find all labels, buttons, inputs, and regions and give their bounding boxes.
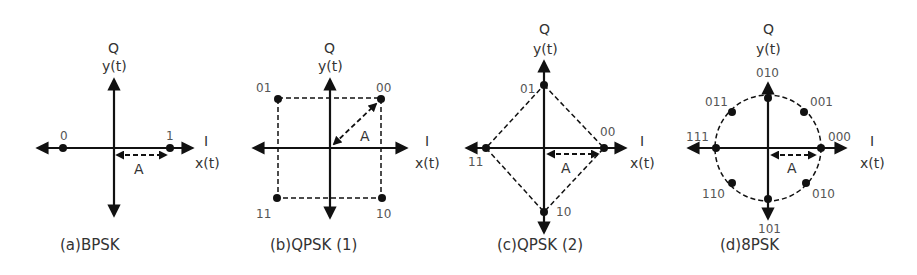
amplitude-label: A [561,160,571,176]
panel-caption: (d)8PSK [720,236,780,254]
symbol-point-11 [273,194,281,202]
q-axis-label: Q [108,40,119,56]
y-axis-label: y(t) [756,41,781,57]
x-axis-label: x(t) [195,155,220,171]
symbol-label: 111 [686,130,709,144]
symbol-point-0 [59,144,67,152]
panel-caption: (a)BPSK [60,236,121,254]
q-axis-label: Q [763,21,774,37]
panel-caption: (b)QPSK (1) [270,236,357,254]
symbol-point-101 [764,195,772,203]
amplitude-arrow [334,104,376,144]
i-axis-label: I [425,133,429,149]
x-axis-label: x(t) [860,155,885,171]
symbol-label: 000 [828,130,851,144]
symbol-label: 00 [600,125,615,139]
symbol-label: 00 [376,81,391,95]
panel-bpsk: 0 1 A Q y(t) I x(t) (a)BPSK [38,40,220,254]
symbol-label: 01 [520,82,535,96]
symbol-label: 101 [758,222,781,236]
symbol-point-00 [600,144,608,152]
symbol-point-11 [482,144,490,152]
symbol-point-001 [800,108,808,116]
symbol-label: 110 [702,187,725,201]
symbol-point-110 [728,179,736,187]
symbol-label: 010 [812,187,835,201]
constellation-diagrams: 0 1 A Q y(t) I x(t) (a)BPSK 01 00 11 10 … [0,0,917,275]
i-axis-label: I [204,133,208,149]
amplitude-label: A [360,128,370,144]
symbol-point-01 [540,81,548,89]
panel-8psk: 010 001 011 111 000 110 010 101 A Q y(t)… [686,21,885,254]
x-axis-label: x(t) [415,155,440,171]
i-axis-label: I [640,133,644,149]
q-axis-label: Q [539,21,550,37]
symbol-point-1 [166,144,174,152]
symbol-label: 10 [556,205,571,219]
symbol-point-01 [274,95,282,103]
y-axis-label: y(t) [102,58,127,74]
y-axis-label: y(t) [318,58,343,74]
symbol-point-10 [378,194,386,202]
panel-caption: (c)QPSK (2) [497,236,583,254]
symbol-label: 001 [810,95,833,109]
i-axis-label: I [870,133,874,149]
panel-qpsk-1: 01 00 11 10 A Q y(t) I x(t) (b)QPSK (1) [254,40,440,254]
symbol-label: 01 [256,81,271,95]
amplitude-label: A [787,160,797,176]
symbol-label: 11 [468,155,483,169]
symbol-point-000 [817,144,825,152]
symbol-label: 1 [166,129,174,143]
x-axis-label: x(t) [630,155,655,171]
symbol-label: 10 [376,207,391,221]
amplitude-label: A [134,161,144,177]
symbol-label: 011 [705,95,728,109]
symbol-point-010-bottom [802,179,810,187]
symbol-point-010-top [764,94,772,102]
y-axis-label: y(t) [533,41,558,57]
symbol-point-111 [712,144,720,152]
symbol-label: 11 [256,207,271,221]
symbol-label: 010 [756,66,779,80]
symbol-point-011 [728,108,736,116]
q-axis-label: Q [324,40,335,56]
symbol-label: 0 [60,129,68,143]
symbol-point-10 [540,208,548,216]
panel-qpsk-2: 01 00 11 10 A Q y(t) I x(t) (c)QPSK (2) [467,21,655,254]
symbol-point-00 [377,95,385,103]
